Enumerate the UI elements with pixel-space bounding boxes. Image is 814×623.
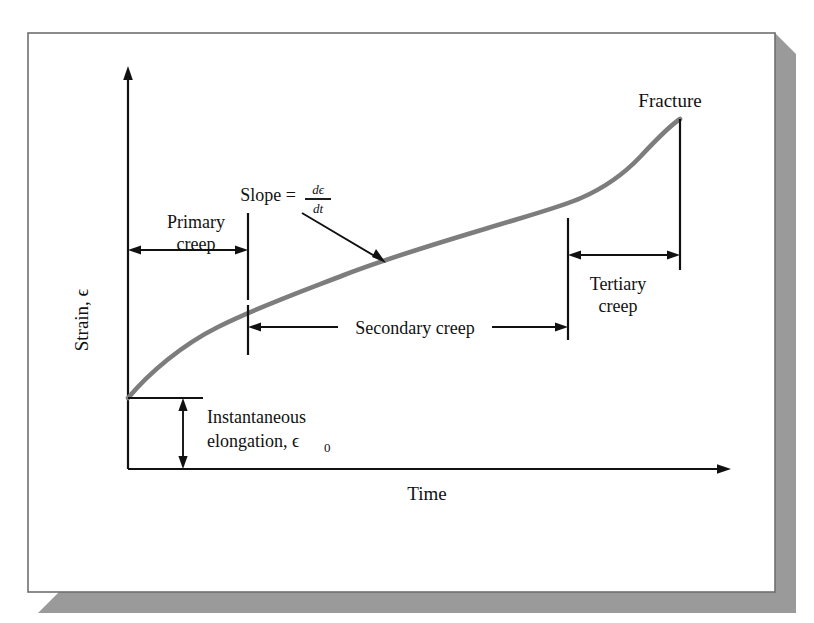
x-axis-label: Time xyxy=(407,483,446,504)
instantaneous-elongation-label-line2: elongation, ϵ xyxy=(207,431,299,451)
y-axis-label: Strain, ϵ xyxy=(71,288,92,351)
primary-creep-label-line2-visible: creep xyxy=(177,234,216,254)
figure-canvas: Strain, ϵ Time Primary creep creep xyxy=(0,0,814,623)
tertiary-creep-label-line2: creep xyxy=(599,296,638,316)
figure-frame xyxy=(28,33,775,592)
fracture-label: Fracture xyxy=(638,90,701,111)
slope-label-text: Slope = xyxy=(240,185,296,205)
instantaneous-elongation-label-line1: Instantaneous xyxy=(207,407,306,427)
slope-denominator: dt xyxy=(313,201,324,216)
secondary-creep-label: Secondary creep xyxy=(355,318,474,338)
instantaneous-elongation-subscript: 0 xyxy=(324,440,331,455)
primary-creep-label-line1: Primary xyxy=(167,212,225,232)
tertiary-creep-label-line1: Tertiary xyxy=(590,274,647,294)
creep-curve-figure: Strain, ϵ Time Primary creep creep xyxy=(0,0,814,623)
slope-numerator: dϵ xyxy=(312,182,325,197)
